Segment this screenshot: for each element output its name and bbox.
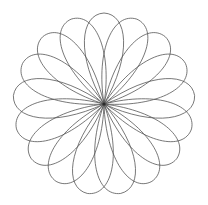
rosette-figure	[0, 0, 208, 205]
figure-canvas	[0, 0, 208, 205]
center-node	[102, 102, 105, 105]
